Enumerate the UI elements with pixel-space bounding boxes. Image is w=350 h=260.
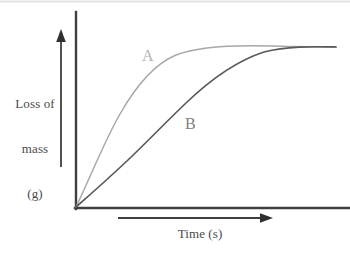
y-axis-title-line-3: (g): [4, 186, 66, 201]
chart-figure: Loss of mass (g) Time (s) A B: [0, 0, 350, 260]
series-label-b: B: [185, 116, 196, 132]
series-label-a: A: [142, 48, 154, 64]
y-axis-title: Loss of mass (g): [4, 66, 66, 231]
y-axis-title-line-1: Loss of: [4, 96, 66, 111]
y-axis-title-line-2: mass: [4, 141, 66, 156]
series-curve-a: [76, 46, 336, 207]
x-axis-title: Time (s): [150, 226, 250, 241]
x-direction-arrow: [118, 213, 273, 223]
series-curve-b: [76, 47, 336, 207]
